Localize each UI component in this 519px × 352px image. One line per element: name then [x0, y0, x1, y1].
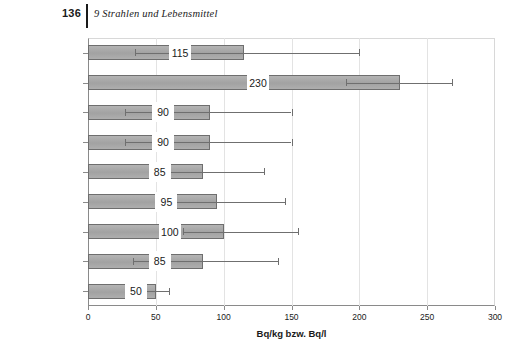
bar-value-label: 115 [169, 43, 191, 63]
error-bar-cap [285, 198, 286, 205]
x-axis-tick [88, 306, 89, 310]
bar-chart: Honig115Haselnüsse230Obst90Gemüse90Geflü… [0, 34, 519, 352]
error-bar-cap [278, 258, 279, 265]
error-bar [163, 172, 265, 173]
x-axis-tick [359, 306, 360, 310]
bar-row: Obst90 [0, 98, 407, 128]
bar-value-label: 50 [125, 281, 147, 301]
bar-row: Kalbfleisch95 [0, 187, 407, 217]
error-bar [172, 202, 285, 203]
bar-row: Milch50 [0, 276, 407, 306]
x-axis-tick-label: 150 [272, 312, 312, 322]
bar-row: Honig115 [0, 38, 407, 68]
error-bar-cap [359, 49, 360, 56]
error-bar-cap [125, 109, 126, 116]
chapter-title: 9 Strahlen und Lebensmittel [94, 8, 218, 19]
x-axis-tick [292, 306, 293, 310]
error-bar-cap [183, 228, 184, 235]
error-bar [145, 291, 169, 292]
error-bar-cap [346, 79, 347, 86]
gridline [427, 38, 428, 306]
error-bar [125, 112, 292, 113]
error-bar-cap [298, 228, 299, 235]
error-bar-cap [169, 288, 170, 295]
error-bar [346, 83, 452, 84]
header-divider [86, 4, 88, 28]
x-axis-tick-label: 300 [475, 312, 515, 322]
x-axis-tick-label: 50 [136, 312, 176, 322]
error-bar-cap [125, 139, 126, 146]
bar-value-label: 90 [152, 132, 174, 152]
bar-row: Rindfleisch100 [0, 217, 407, 247]
error-bar-cap [292, 139, 293, 146]
error-bar [125, 142, 292, 143]
bar-value-label: 95 [155, 192, 177, 212]
page-number: 136 [62, 7, 81, 19]
x-axis-tick-label: 200 [339, 312, 379, 322]
error-bar [183, 232, 298, 233]
bar-value-label: 100 [159, 222, 181, 242]
x-axis-tick [495, 306, 496, 310]
x-axis-tick-label: 250 [407, 312, 447, 322]
x-axis-tick [224, 306, 225, 310]
bar-row: Schweinefleisch85 [0, 246, 407, 276]
bar-row: Geflügel85 [0, 157, 407, 187]
bar-value-label: 230 [247, 73, 269, 93]
error-bar-cap [452, 79, 453, 86]
error-bar-cap [133, 258, 134, 265]
error-bar-cap [135, 49, 136, 56]
bar-value-label: 85 [149, 251, 171, 271]
x-axis-tick-label: 0 [68, 312, 108, 322]
x-axis-tick [156, 306, 157, 310]
error-bar-cap [292, 109, 293, 116]
bar-row: Haselnüsse230 [0, 68, 407, 98]
bar-value-label: 85 [149, 162, 171, 182]
x-axis-tick [427, 306, 428, 310]
x-axis-tick-label: 100 [204, 312, 244, 322]
error-bar-cap [264, 168, 265, 175]
x-axis-title: Bq/kg bzw. Bq/l [88, 328, 495, 339]
page-header: 136 9 Strahlen und Lebensmittel [0, 0, 519, 34]
bar-row: Gemüse90 [0, 127, 407, 157]
bar-value-label: 90 [152, 102, 174, 122]
